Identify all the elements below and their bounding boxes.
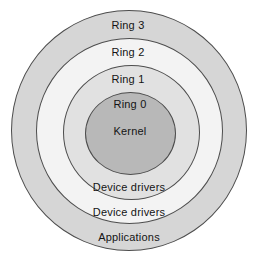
ring0-label: Ring 0 xyxy=(114,99,147,110)
ring2-label: Ring 2 xyxy=(112,47,145,58)
device-drivers-ring2-label: Device drivers xyxy=(93,207,166,218)
device-drivers-ring1-label: Device drivers xyxy=(93,182,166,193)
kernel-label: Kernel xyxy=(114,126,147,137)
ring3-label: Ring 3 xyxy=(112,20,145,31)
applications-label: Applications xyxy=(98,232,160,243)
ring1-label: Ring 1 xyxy=(112,74,145,85)
protection-rings-diagram: Ring 3 Ring 2 Ring 1 Ring 0 Kernel Devic… xyxy=(0,0,257,263)
